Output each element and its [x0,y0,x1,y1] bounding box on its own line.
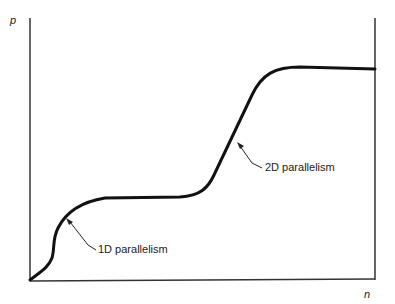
growth-curve [30,67,375,280]
arrow-2d-head [237,142,244,149]
diagram-canvas [0,0,395,304]
annotation-1d-parallelism: 1D parallelism [98,243,168,255]
y-axis-label: p [10,14,16,26]
annotation-2d-parallelism: 2D parallelism [265,161,335,173]
x-axis-label: n [364,288,370,300]
x-axis [30,279,375,281]
arrow-2d-leader [240,146,252,163]
arrow-1d-leader [70,222,88,245]
